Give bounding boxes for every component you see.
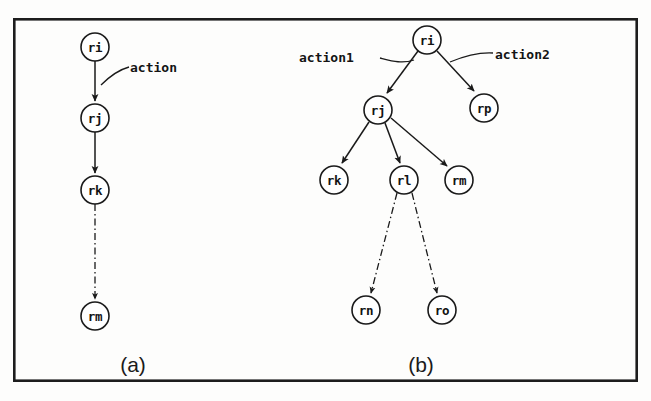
node-rm-a[interactable]: rm (81, 302, 109, 330)
edge-ri-rj-b (387, 51, 418, 93)
node-label: rj (88, 111, 102, 126)
node-rn-b[interactable]: rn (352, 296, 380, 324)
action-leader-a (101, 67, 129, 85)
panel-caption-b: (b) (408, 353, 434, 376)
action2-leader-b (450, 53, 493, 62)
node-label: rn (359, 303, 373, 318)
action2-label-b: action2 (495, 47, 550, 62)
figure-canvas: action ri rj rk rm (a) (0, 0, 651, 401)
node-label: rp (477, 101, 491, 116)
figure-frame (14, 19, 636, 380)
node-ri-b[interactable]: ri (413, 26, 441, 54)
node-rj-a[interactable]: rj (81, 104, 109, 132)
node-label: rm (88, 309, 103, 324)
edge-rj-rm-b (391, 118, 447, 166)
node-label: rj (371, 103, 385, 118)
node-rm-b[interactable]: rm (445, 166, 473, 194)
node-ro-b[interactable]: ro (428, 296, 456, 324)
edge-rj-rk-b (342, 122, 369, 163)
edge-rl-rn-b (371, 193, 397, 293)
panel-b: action1 action2 ri rj rp rk (299, 26, 550, 376)
node-label: rl (397, 173, 411, 188)
action-label-a: action (130, 60, 177, 75)
edge-ri-rp-b (437, 51, 474, 91)
node-label: rk (88, 183, 103, 198)
panel-caption-a: (a) (120, 353, 146, 376)
action1-label-b: action1 (299, 50, 354, 65)
node-ri-a[interactable]: ri (81, 33, 109, 61)
edge-rj-rl-b (385, 123, 400, 163)
edge-rl-ro-b (412, 193, 437, 293)
node-label: rm (452, 173, 467, 188)
figure-container: action ri rj rk rm (a) (0, 0, 651, 401)
node-rp-b[interactable]: rp (470, 94, 498, 122)
node-rj-b[interactable]: rj (364, 96, 392, 124)
node-label: ro (435, 303, 449, 318)
node-label: ri (88, 40, 103, 55)
panel-a: action ri rj rk rm (a) (81, 33, 177, 376)
node-rk-b[interactable]: rk (320, 166, 348, 194)
node-label: rk (327, 173, 342, 188)
node-rl-b[interactable]: rl (390, 166, 418, 194)
node-label: ri (420, 33, 435, 48)
node-rk-a[interactable]: rk (81, 176, 109, 204)
action1-leader-b (380, 58, 414, 62)
